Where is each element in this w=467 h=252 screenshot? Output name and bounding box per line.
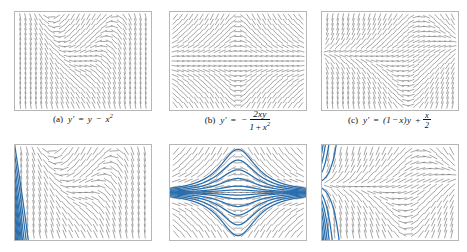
- caption-a-rhs-exponent: 2: [110, 112, 113, 119]
- integral-curves-b-canvas: [170, 145, 306, 240]
- integral-curves-b-panel: [169, 144, 307, 241]
- caption-b-label: (b): [205, 115, 216, 125]
- caption-c-plus: +: [414, 115, 422, 125]
- caption-c: (c) y′ = (1−x)y +x2: [321, 111, 459, 130]
- caption-b-den-plus: +: [254, 122, 262, 132]
- caption-c-equals: =: [372, 115, 380, 125]
- caption-c-frac-num: x: [423, 111, 431, 121]
- direction-field-c-panel: [321, 11, 459, 111]
- caption-b-denominator: 1+x2: [250, 120, 271, 132]
- direction-field-a-panel: [14, 11, 152, 111]
- caption-a-rhs-y: y: [88, 114, 92, 124]
- slope-tick-group: [324, 13, 457, 108]
- slope-tick-group: [20, 147, 145, 239]
- caption-c-label: (c): [348, 115, 358, 125]
- direction-field-b-panel: [169, 11, 307, 111]
- caption-b-numerator: 2xy: [250, 110, 271, 121]
- caption-b: (b) y′ = −2xy1+x2: [169, 110, 307, 132]
- direction-field-b-canvas: [170, 12, 306, 110]
- integral-curves-a-panel: [14, 144, 152, 241]
- slope-tick-group: [324, 147, 456, 239]
- caption-c-frac-den: 2: [423, 120, 431, 129]
- integral-curves-a-canvas: [15, 145, 151, 240]
- caption-b-equation: y′ = −2xy1+x2: [218, 115, 272, 125]
- caption-a-equation: y′ = y − x2: [65, 114, 113, 124]
- caption-b-prime: ′: [225, 115, 227, 125]
- figure-root: (a) y′ = y − x2 (b) y′ = −2xy1+x2 (c) y′…: [0, 0, 467, 252]
- caption-a-label: (a): [53, 114, 63, 124]
- slope-tick-group: [20, 13, 147, 108]
- caption-a: (a) y′ = y − x2: [14, 113, 152, 125]
- caption-b-den-exponent: 2: [267, 120, 270, 127]
- caption-b-equals: =: [229, 115, 237, 125]
- integral-curves-c-canvas: [322, 145, 458, 240]
- caption-c-prime: ′: [367, 115, 369, 125]
- integral-curve: [322, 145, 331, 164]
- caption-b-sign: −: [240, 115, 248, 125]
- caption-a-rhs-minus: −: [95, 114, 103, 124]
- caption-c-fraction: x2: [423, 111, 431, 130]
- direction-field-a-canvas: [15, 12, 151, 110]
- direction-field-c-canvas: [322, 12, 458, 110]
- caption-b-fraction: 2xy1+x2: [250, 110, 271, 132]
- caption-a-equals: =: [77, 114, 85, 124]
- caption-c-y: y: [407, 115, 411, 125]
- caption-c-equation: y′ = (1−x)y +x2: [360, 115, 432, 125]
- caption-a-prime: ′: [72, 114, 74, 124]
- integral-curves-c-panel: [321, 144, 459, 241]
- slope-tick-group: [172, 14, 305, 109]
